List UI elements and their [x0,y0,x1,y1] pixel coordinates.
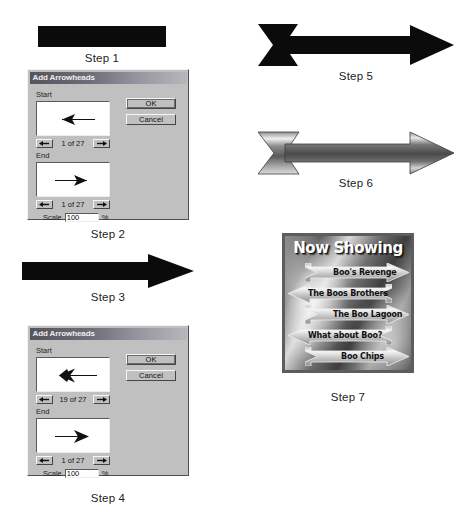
scale-input[interactable]: 100 [65,213,99,222]
scale-unit: % [102,213,109,222]
end-arrow-preview[interactable] [36,162,110,197]
right-arrow-icon [96,397,107,402]
step2-label: Step 2 [48,228,168,240]
end-group-label: End [36,152,49,160]
end-counter: 1 of 27 [47,456,99,465]
feathered-left-arrow-icon [37,358,110,392]
step4-label: Step 4 [48,492,168,504]
scale-label: Scale [43,469,62,478]
start-group-label: Start [36,91,52,99]
movie-title: Boo Chips [341,347,384,366]
thin-left-arrow-icon [37,102,110,136]
end-next-button[interactable] [93,200,110,209]
step6-arrow-shape [258,131,454,175]
movie-title: The Boos Brothers [308,284,388,303]
step5-label: Step 5 [296,70,416,82]
cancel-button[interactable]: Cancel [126,114,176,125]
movie-banner-right[interactable]: Boo's Revenge [305,263,409,282]
thin-right-arrow-icon [37,163,110,197]
scale-unit: % [102,469,109,478]
ok-button[interactable]: OK [126,98,176,109]
end-group-label: End [36,408,49,416]
movie-title: Boo's Revenge [333,263,397,282]
ok-button[interactable]: OK [126,354,176,365]
start-group-label: Start [36,347,52,355]
step6-label: Step 6 [296,177,416,189]
right-arrow-icon [96,202,107,207]
now-showing-poster: Now Showing Boo's Revenge The Boos [282,233,414,373]
movie-title: The Boo Lagoon [333,305,402,324]
start-counter: 1 of 27 [47,139,99,148]
cancel-button[interactable]: Cancel [126,370,176,381]
poster-heading: Now Showing [285,239,411,257]
scale-row[interactable]: Scale 100 % [43,213,108,222]
step1-black-bar [38,26,166,47]
start-arrow-preview[interactable] [36,101,110,136]
solid-right-arrowhead-icon [37,419,110,453]
movie-title: What about Boo? [308,326,382,345]
dialog-body: Start 1 of 27 End [28,84,188,219]
start-next-button[interactable] [93,395,110,404]
dialog-title-bar: Add Arrowheads [30,328,187,340]
step3-label: Step 3 [48,291,168,303]
step3-arrow-shape [22,254,194,288]
poster-metallic-background: Now Showing Boo's Revenge The Boos [285,236,411,370]
add-arrowheads-dialog-step4[interactable]: Add Arrowheads Start 19 of 27 End [27,325,189,476]
scale-input[interactable]: 100 [65,469,99,478]
right-arrow-icon [96,458,107,463]
step7-label: Step 7 [288,391,408,403]
start-next-button[interactable] [93,139,110,148]
movie-banner-right[interactable]: The Boo Lagoon [305,305,409,324]
scale-row[interactable]: Scale 100 % [43,469,108,478]
black-feathered-double-arrow [258,24,454,66]
end-counter: 1 of 27 [47,200,99,209]
dialog-body: Start 19 of 27 End [28,340,188,475]
movie-banner-left[interactable]: The Boos Brothers [288,284,392,303]
metallic-gradient-feathered-arrow [258,131,454,175]
scale-label: Scale [43,213,62,222]
movie-banner-left[interactable]: What about Boo? [288,326,392,345]
start-counter: 19 of 27 [47,395,99,404]
movie-banner-right[interactable]: Boo Chips [305,347,409,366]
dialog-title-bar: Add Arrowheads [30,72,187,84]
start-arrow-preview[interactable] [36,357,110,392]
black-single-headed-arrow [22,254,194,288]
add-arrowheads-dialog-step2[interactable]: Add Arrowheads Start 1 of 27 End [27,69,189,220]
right-arrow-icon [96,141,107,146]
end-next-button[interactable] [93,456,110,465]
end-arrow-preview[interactable] [36,418,110,453]
step5-arrow-shape [258,24,454,66]
step1-label: Step 1 [38,52,166,64]
